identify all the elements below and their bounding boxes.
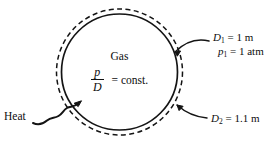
diameter-2-symbol: D [211, 112, 219, 124]
diameter-1-symbol: D [213, 31, 221, 43]
diameter-2-callout: D2 = 1.1 m [211, 112, 259, 126]
heat-flow-wavy-arrow-shaft [33, 104, 78, 124]
diameter-1-subscript: 1 [221, 36, 225, 45]
diameter-1-value: = 1 m [227, 31, 253, 43]
relation-fraction: p D = const. [91, 66, 148, 94]
fraction-numerator: p [91, 66, 104, 79]
fraction-denominator: D [91, 81, 104, 94]
diameter-2-subscript: 2 [219, 117, 223, 126]
pressure-1-subscript: 1 [224, 50, 228, 59]
heat-label: Heat [4, 110, 26, 122]
pressure-diameter-relation: p D = const. [0, 66, 239, 94]
fraction-p-over-d: p D [91, 66, 104, 94]
gas-label: Gas [0, 50, 239, 62]
pressure-1-value: = 1 atm [230, 45, 264, 57]
diameter-2-value: = 1.1 m [225, 112, 259, 124]
thermodynamics-figure: Gas p D = const. D1 = 1 m p1 = 1 atm D2 … [0, 0, 274, 147]
relation-equals-const: = const. [112, 74, 149, 86]
pressure-1-callout: p1 = 1 atm [218, 45, 264, 59]
diameter-1-callout: D1 = 1 m [213, 31, 253, 45]
